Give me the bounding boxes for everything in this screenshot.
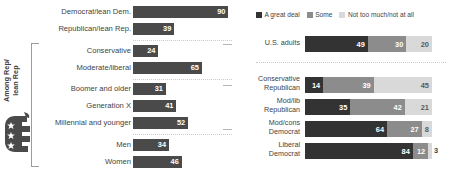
axis-tick [223,129,232,130]
legend-label: A great deal [265,11,300,18]
bar-value-label: 65 [133,62,199,74]
bar-row: Democrat/lean Dem.90 [0,3,232,20]
segment-value-label: 21 [421,103,429,112]
stacked-bar-segment: 49 [305,36,368,52]
stacked-bar-segment: 45 [374,77,432,93]
stacked-bar-row: U.S. adults493020 [232,33,453,55]
stacked-bar-row: LiberalDemocrat84123 [232,140,453,162]
stacked-bar: 64278 [305,121,432,137]
row-group-separator [133,134,232,135]
bar-value-label: 31 [133,83,163,95]
stacked-bar-segment: 12 [413,143,428,159]
stacked-bar-segment: 84 [305,143,413,159]
segment-value-label: 8 [425,125,429,134]
legend-label: Some [315,11,332,18]
axis-tick [223,44,232,45]
stacked-bar-row: ConservativeRepublican143945 [232,74,453,96]
segment-value-label: 49 [357,40,365,49]
bar-row-label: Millennial and younger [38,114,131,131]
stacked-bar-row: Mod/libRepublican354221 [232,96,453,118]
row-label-line2: Republican [232,84,300,93]
segment-value-label: 27 [410,125,418,134]
bar-row-label: Republican/lean Rep. [38,20,131,37]
segment-value-label: 14 [312,81,320,90]
stacked-bar-row-label: Mod/libRepublican [232,97,300,114]
bar-row: Conservative24 [0,42,232,59]
stacked-bar-segment: 39 [323,77,374,93]
stacked-bar-segment: 21 [405,99,432,115]
stacked-bar: 143945 [305,77,432,93]
bar-value-label: 34 [133,139,166,151]
stacked-bar-row-label: Mod/consDemocrat [232,119,300,136]
bar-row-label: Men [38,136,131,153]
stacked-bar: 354221 [305,99,432,115]
bar-value-label: 41 [133,100,173,112]
bar-row-label: Women [38,153,131,170]
bar-row: Moderate/liberal65 [0,59,232,76]
segment-value-label: 42 [394,103,402,112]
segment-value-label: 45 [421,81,429,90]
right-stacked-bar-chart: A great dealSomeNot too much/not at all … [232,0,453,172]
segment-value-label: 84 [402,147,410,156]
bar-row: Republican/lean Rep.39 [0,20,232,37]
stacked-bar-segment: 3 [428,143,432,159]
segment-value-label: 64 [376,125,384,134]
legend-label: Not too much/not at all [348,11,414,18]
bar-row: Boomer and older31 [0,80,232,97]
stacked-bar-segment: 35 [305,99,350,115]
segment-value-label: 20 [421,40,429,49]
stacked-bar-row-label: ConservativeRepublican [232,75,300,92]
stacked-bar-segment: 30 [368,36,406,52]
legend-swatch [307,12,313,18]
legend-item[interactable]: Some [307,11,333,18]
segment-value-label: 12 [417,147,425,156]
bar-value-label: 24 [133,45,155,57]
stacked-bar-row: Mod/consDemocrat64278 [232,118,453,140]
row-label-line2: Democrat [232,128,300,137]
bar-row-label: Conservative [38,42,131,59]
row-group-separator [133,40,232,41]
bar-row: Women46 [0,153,232,170]
stacked-bar-segment: 27 [387,121,422,137]
stacked-bar: 493020 [305,36,432,52]
stacked-bar-segment: 42 [350,99,404,115]
left-bar-chart: Among Rep/ lean Rep Democrat/lean Dem.90… [0,0,232,172]
bar-row: Men34 [0,136,232,153]
right-separator [256,62,446,63]
stacked-bar: 84123 [305,143,432,159]
stacked-bar-segment: 64 [305,121,387,137]
stacked-bar-row-label: LiberalDemocrat [232,141,300,158]
bar-row: Generation X41 [0,97,232,114]
bar-value-label: 39 [133,23,171,35]
bar-row-label: Generation X [38,97,131,114]
bar-row-label: Boomer and older [38,80,131,97]
row-label-line1: U.S. adults [232,39,300,48]
bar-row-label: Moderate/liberal [38,59,131,76]
stacked-bar-segment: 14 [305,77,323,93]
segment-value-label: 35 [339,103,347,112]
row-label-line2: Democrat [232,150,300,159]
legend: A great dealSomeNot too much/not at all [256,11,421,18]
row-label-line2: Republican [232,106,300,115]
bar-value-label: 90 [133,6,225,18]
legend-item[interactable]: A great deal [256,11,300,18]
legend-item[interactable]: Not too much/not at all [339,11,413,18]
row-group-separator [133,79,232,80]
segment-value-label: 3 [434,143,438,159]
axis-tick [223,85,232,86]
bar-row: Millennial and younger52 [0,114,232,131]
bar-row-label: Democrat/lean Dem. [38,3,131,20]
legend-swatch [256,12,262,18]
segment-value-label: 39 [362,81,370,90]
stacked-bar-segment: 8 [422,121,432,137]
legend-swatch [339,12,345,18]
bar-value-label: 52 [133,117,185,129]
segment-value-label: 30 [395,40,403,49]
bar-value-label: 46 [133,156,179,168]
stacked-bar-segment: 20 [406,36,432,52]
chart-figure: Among Rep/ lean Rep Democrat/lean Dem.90… [0,0,453,172]
stacked-bar-row-label: U.S. adults [232,39,300,48]
